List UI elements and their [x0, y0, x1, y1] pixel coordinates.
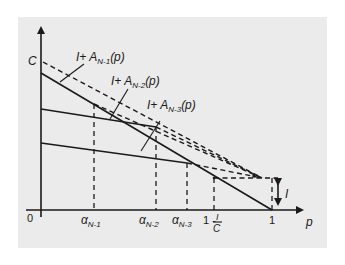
origin-label: 0 [27, 212, 33, 224]
x-axis-label-p: p [305, 215, 313, 229]
diagram: I I+ AN-1(p) I+ AN-2(p) I+ AN-3(p) C p 0… [0, 0, 345, 265]
y-axis-label-c: C [28, 54, 37, 68]
x-tick-1: 1 [269, 214, 275, 226]
svg-text:C: C [213, 223, 221, 234]
point-marker [252, 174, 256, 178]
